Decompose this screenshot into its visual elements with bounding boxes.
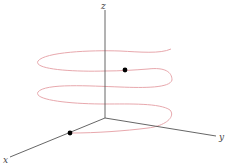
point-on-helix — [123, 68, 128, 73]
axes — [10, 10, 216, 157]
y-axis-label: y — [218, 132, 225, 142]
z-axis-label: z — [100, 1, 106, 11]
x-axis — [10, 118, 105, 157]
y-axis — [105, 118, 216, 136]
start-point — [68, 131, 73, 136]
helix-diagram: z x y — [0, 0, 231, 168]
x-axis-label: x — [3, 155, 8, 165]
